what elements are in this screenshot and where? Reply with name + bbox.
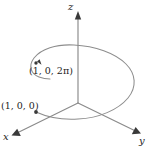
helix-path [31, 45, 134, 119]
z-axis [75, 11, 81, 103]
y-axis-arrowhead [132, 127, 141, 134]
helix-end-arrowhead [37, 59, 42, 65]
point-label-top: (1, 0, 2π) [29, 66, 73, 76]
helix-curve-group [31, 45, 134, 119]
figure-canvas [0, 0, 151, 150]
y-axis-label: y [139, 136, 145, 146]
x-axis-label: x [3, 132, 9, 142]
helix-figure: z y x (1, 0, 2π) (1, 0, 0) [0, 0, 151, 150]
z-axis-label: z [68, 2, 73, 12]
point-label-bottom: (1, 0, 0) [1, 101, 39, 111]
z-axis-arrowhead [75, 11, 81, 20]
y-axis-line [78, 103, 135, 131]
